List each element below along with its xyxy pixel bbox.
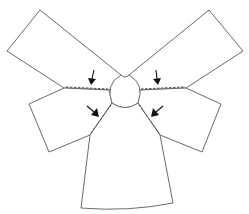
top-right-panel [129, 10, 243, 90]
sewing-pattern-diagram [0, 0, 249, 214]
center-head-piece [110, 75, 140, 108]
top-left-panel [7, 10, 121, 90]
